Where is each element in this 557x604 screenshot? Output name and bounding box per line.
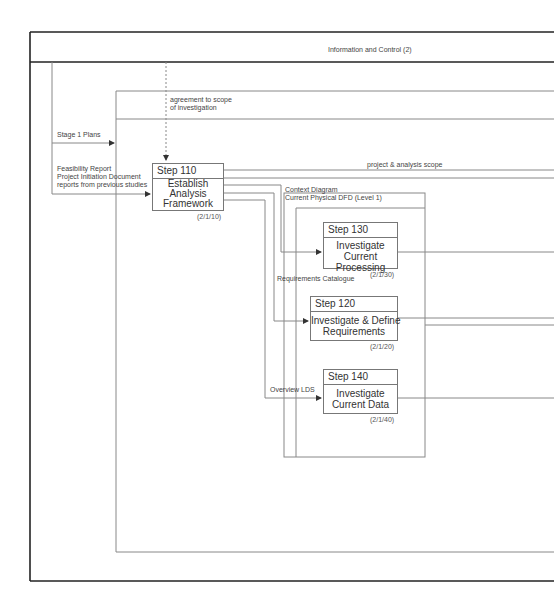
step-title: Investigate Current Data <box>324 385 397 410</box>
step-title: Investigate & Define Requirements <box>311 312 397 337</box>
header-title: Information and Control (2) <box>328 46 412 54</box>
flow-label-context: Context Diagram Current Physical DFD (Le… <box>285 186 382 202</box>
step-number: Step 130 <box>324 223 397 238</box>
diagram-lines <box>0 0 557 604</box>
step-130-box[interactable]: Step 130 Investigate Current Processing <box>323 222 398 269</box>
flow-label-stage1-plans: Stage 1 Plans <box>57 131 101 139</box>
outer-frame <box>30 32 554 581</box>
flow-label-scope: project & analysis scope <box>367 161 442 169</box>
step-number: Step 120 <box>311 297 397 312</box>
step-110-box[interactable]: Step 110 Establish Analysis Framework <box>152 163 224 211</box>
step-number: Step 110 <box>153 164 223 179</box>
flow-label-overview-lds: Overview LDS <box>270 386 315 394</box>
step-title: Establish Analysis Framework <box>153 179 223 209</box>
step-140-box[interactable]: Step 140 Investigate Current Data <box>323 369 398 414</box>
step-number: Step 140 <box>324 370 397 385</box>
flow-label-agreement: agreement to scope of investigation <box>170 96 232 112</box>
step-120-ref: (2/1/20) <box>370 343 394 350</box>
step-title: Investigate Current Processing <box>324 238 397 273</box>
step-110-ref: (2/1/10) <box>197 213 221 220</box>
flow-label-feasibility: Feasibility Report Project Initiation Do… <box>57 165 147 189</box>
step-130-ref: (2/1/30) <box>370 271 394 278</box>
flow-label-requirements: Requirements Catalogue <box>277 275 354 283</box>
step-140-ref: (2/1/40) <box>370 416 394 423</box>
step-120-box[interactable]: Step 120 Investigate & Define Requiremen… <box>310 296 398 341</box>
